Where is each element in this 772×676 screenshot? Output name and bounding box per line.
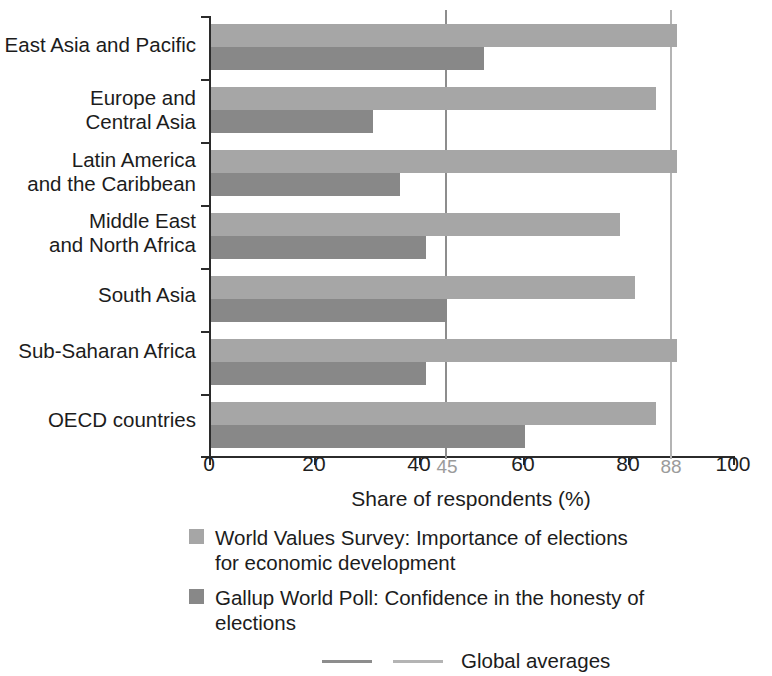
bar-wvs-south-asia: [211, 276, 635, 299]
legend-line-icon-global-average-dark: [322, 660, 372, 663]
legend-label-wvs: World Values Survey: Importance of elect…: [215, 525, 645, 575]
y-axis-label-europe-and-central-asia: Europe and Central Asia: [0, 86, 196, 134]
x-tick-label-0: 0: [203, 452, 215, 476]
y-axis-tick: [201, 205, 210, 207]
bar-wvs-oecd-countries: [211, 402, 656, 425]
bar-wvs-sub-saharan-africa: [211, 339, 677, 362]
x-axis-line: [209, 456, 735, 458]
legend-label-gallup: Gallup World Poll: Confidence in the hon…: [215, 585, 645, 635]
bar-gallup-sub-saharan-africa: [211, 362, 426, 385]
legend-label-global-averages: Global averages: [461, 649, 610, 673]
bar-gallup-east-asia-and-pacific: [211, 47, 484, 70]
bar-gallup-europe-and-central-asia: [211, 110, 373, 133]
x-tick-label-100: 100: [715, 452, 750, 476]
bar-gallup-south-asia: [211, 299, 447, 322]
legend-swatch-icon-gallup: [189, 589, 204, 604]
plot-area: [209, 16, 733, 456]
bar-gallup-middle-east-and-north-africa: [211, 236, 426, 259]
y-axis-label-middle-east-and-north-africa: Middle East and North Africa: [0, 209, 196, 257]
x-tick-label-20: 20: [302, 452, 325, 476]
x-tick-label-60: 60: [511, 452, 534, 476]
x-tick-label-80: 80: [616, 452, 639, 476]
y-axis-tick: [201, 142, 210, 144]
chart-legend: World Values Survey: Importance of elect…: [0, 525, 772, 676]
y-axis-tick: [201, 268, 210, 270]
bar-wvs-latin-america-and-the-caribbean: [211, 150, 677, 173]
y-axis-label-east-asia-and-pacific: East Asia and Pacific: [0, 33, 196, 57]
y-axis-tick: [201, 16, 210, 18]
x-tick-label-45-global-average: 45: [436, 455, 457, 479]
x-axis-title: Share of respondents (%): [209, 487, 733, 511]
x-tick-label-40: 40: [407, 452, 430, 476]
legend-swatch-icon-wvs: [189, 529, 204, 544]
legend-item-world-values-survey: World Values Survey: Importance of elect…: [0, 525, 772, 575]
reference-line-global-average-wvs: [670, 10, 672, 459]
legend-item-global-averages: Global averages: [0, 649, 772, 673]
bar-gallup-oecd-countries: [211, 425, 525, 448]
y-axis-label-south-asia: South Asia: [0, 283, 196, 307]
y-axis-tick: [201, 331, 210, 333]
y-axis-tick: [201, 79, 210, 81]
x-tick-label-88-global-average: 88: [660, 455, 681, 479]
legend-line-icon-global-average-light: [393, 660, 443, 663]
y-axis-tick: [201, 394, 210, 396]
y-axis-label-oecd-countries: OECD countries: [0, 408, 196, 432]
bar-wvs-middle-east-and-north-africa: [211, 213, 620, 236]
legend-item-gallup-world-poll: Gallup World Poll: Confidence in the hon…: [0, 585, 772, 635]
bar-wvs-europe-and-central-asia: [211, 87, 656, 110]
y-axis-label-sub-saharan-africa: Sub-Saharan Africa: [0, 339, 196, 363]
bar-gallup-latin-america-and-the-caribbean: [211, 173, 400, 196]
bar-wvs-east-asia-and-pacific: [211, 24, 677, 47]
y-axis-label-latin-america-and-the-caribbean: Latin America and the Caribbean: [0, 148, 196, 196]
